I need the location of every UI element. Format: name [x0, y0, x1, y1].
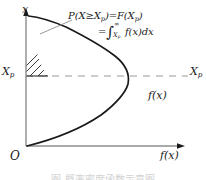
- integral-lower-limit: Xp: [113, 32, 120, 40]
- quantile-right-base: X: [190, 65, 198, 78]
- formula-line-2: =∫∞Xpf(x)dx: [68, 27, 154, 38]
- x-axis-label: f(x): [160, 150, 179, 161]
- probability-density-figure: x f(x) O Xp Xp f(x) P(X≥Xp)=F(Xp) =∫∞Xpf…: [0, 0, 206, 180]
- figure-caption: 图 概率密度函数示意图: [0, 171, 206, 180]
- integral-limits: ∞Xp: [114, 28, 124, 38]
- quantile-left-base: X: [2, 65, 10, 78]
- quantile-left-subscript: p: [10, 70, 15, 79]
- x-axis-arrowhead: [177, 143, 185, 148]
- quantile-right-subscript: p: [198, 70, 203, 79]
- formula-ge-icon: ≥: [85, 10, 93, 21]
- integral-lower-sub: p: [118, 34, 121, 39]
- integrand: f(x): [125, 26, 142, 37]
- formula-eq: )=F(X: [105, 10, 135, 21]
- density-curve-label: f(x): [148, 90, 167, 101]
- formula-close-paren: ): [139, 10, 143, 21]
- formula-line-1: P(X≥Xp)=F(Xp): [68, 11, 154, 22]
- formula-prefix: P(X: [68, 10, 85, 21]
- probability-formula: P(X≥Xp)=F(Xp) =∫∞Xpf(x)dx: [68, 11, 154, 38]
- origin-label: O: [10, 150, 20, 162]
- differential: dx: [142, 26, 154, 37]
- quantile-label-left: Xp: [2, 66, 15, 78]
- y-axis-label: x: [22, 4, 28, 15]
- quantile-label-right: Xp: [190, 66, 203, 78]
- formula-var: X: [94, 10, 101, 21]
- integral-upper-limit: ∞: [114, 21, 119, 28]
